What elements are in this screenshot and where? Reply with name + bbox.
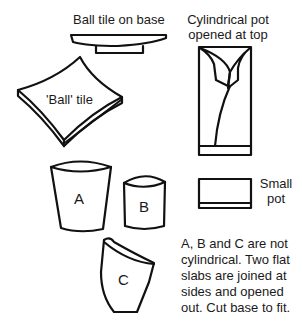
label-cylindrical-pot-line2: opened at top (184, 27, 272, 42)
construction-note: A, B and C are not cylindrical. Two flat… (181, 236, 301, 316)
label-small-pot-line1: Small (254, 176, 298, 191)
label-ball-tile-on-base: Ball tile on base (73, 12, 165, 27)
cylindrical-pot-figure (199, 47, 251, 155)
label-small-pot: Small pot (254, 176, 298, 206)
label-ball-tile: 'Ball' tile (46, 92, 93, 107)
label-pot-c: C (118, 271, 129, 288)
ball-tile-on-base-figure (71, 35, 166, 53)
label-pot-a: A (74, 190, 84, 207)
label-cylindrical-pot-line1: Cylindrical pot (184, 12, 272, 27)
label-small-pot-line2: pot (254, 191, 298, 206)
label-cylindrical-pot: Cylindrical pot opened at top (184, 12, 272, 42)
small-pot-figure (199, 179, 251, 208)
label-pot-b: B (139, 198, 149, 215)
